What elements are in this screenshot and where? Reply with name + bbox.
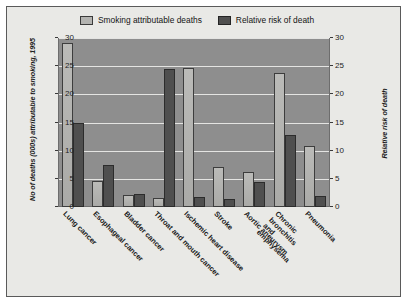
y-tick-label-left: 10 [44,147,74,155]
y-tick-mark-right [330,178,333,179]
bar-risk [224,199,235,207]
y-tick-mark-left [55,206,58,207]
bar-group [300,38,330,207]
y-tick-mark-right [330,93,333,94]
y-tick-label-right: 15 [335,119,365,127]
bar-deaths [304,146,315,207]
y-tick-mark-left [55,178,58,179]
y-tick-label-left: 0 [44,203,74,211]
bar-deaths [153,198,164,207]
y-tick-label-left: 20 [44,90,74,98]
bar-group [149,38,179,207]
category-axis-labels: Lung cancerEsophageal cancerBladder canc… [58,208,330,296]
y-tick-label-right: 0 [335,203,365,211]
bar-risk [134,194,145,207]
bar-risk [254,182,265,207]
y-tick-label-right: 10 [335,147,365,155]
y-tick-label-left: 5 [44,175,74,183]
y-tick-label-left: 25 [44,62,74,70]
y-tick-mark-left [55,37,58,38]
bar-risk [73,123,84,208]
y-tick-mark-right [330,122,333,123]
bar-deaths [243,172,254,207]
bar-risk [315,196,326,207]
legend-label-risk: Relative risk of death [236,15,314,25]
category-label: Stroke [212,210,234,232]
y-tick-label-right: 25 [335,62,365,70]
y-tick-mark-left [55,65,58,66]
bar-group [179,38,209,207]
y-tick-label-left: 30 [44,34,74,42]
y-tick-mark-right [330,65,333,66]
bar-deaths [274,73,285,207]
y-tick-mark-left [55,93,58,94]
legend-swatch-icon-risk [218,16,231,25]
bar-deaths [123,195,134,207]
chart-figure: No of deaths (000s) attributable to smok… [6,6,401,297]
right-axis-title: Relative risk of death [380,44,389,204]
y-tick-mark-right [330,206,333,207]
y-tick-mark-right [330,150,333,151]
bar-group [239,38,269,207]
legend-item-deaths: Smoking attributable deaths [80,15,202,25]
y-tick-label-right: 30 [335,34,365,42]
y-tick-mark-left [55,122,58,123]
y-tick-label-right: 5 [335,175,365,183]
legend-swatch-icon-deaths [80,16,93,25]
bar-risk [164,69,175,207]
bar-group [209,38,239,207]
y-tick-label-left: 15 [44,119,74,127]
left-axis-title: No of deaths (000s) attributable to smok… [28,30,37,210]
chart-legend: Smoking attributable deaths Relative ris… [80,15,314,25]
bar-risk [194,197,205,207]
bar-group [118,38,148,207]
bar-deaths [92,181,103,207]
y-tick-mark-right [330,37,333,38]
bar-deaths [213,167,224,207]
bar-group [88,38,118,207]
y-tick-label-right: 20 [335,90,365,98]
y-tick-mark-left [55,150,58,151]
bar-group [270,38,300,207]
bar-deaths [183,68,194,207]
legend-label-deaths: Smoking attributable deaths [98,15,202,25]
legend-item-risk: Relative risk of death [218,15,314,25]
bars-layer [58,38,330,207]
bar-risk [103,165,114,207]
bar-risk [285,135,296,207]
